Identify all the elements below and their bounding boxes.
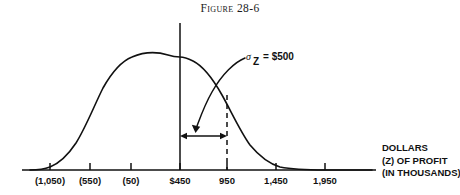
- axis-tick-label-1050: (1,050): [35, 175, 65, 186]
- axis-tick-label-1950: 1,950: [313, 175, 337, 186]
- x-axis-caption-line-2: (Z) OF PROFIT: [382, 155, 460, 168]
- std-dev-span-arrow: [180, 133, 227, 139]
- x-axis-caption: DOLLARS (Z) OF PROFIT (IN THOUSANDS): [382, 142, 460, 180]
- sigma-value: = $500: [259, 51, 294, 62]
- axis-tick-label-950: 950: [219, 175, 235, 186]
- axis-tick-label-1450: 1,450: [264, 175, 288, 186]
- sigma-annotation-label: σZ= $500: [246, 48, 294, 67]
- axis-tick-label-550: (550): [79, 175, 101, 186]
- sigma-subscript: Z: [251, 56, 259, 67]
- figure-page: Figure 28-6 σZ= $500: [0, 0, 460, 195]
- x-axis-caption-line-3: (IN THOUSANDS): [382, 167, 460, 180]
- axis-tick-label-50: (50): [123, 175, 140, 186]
- axis-tick-label-450: $450: [169, 175, 190, 186]
- bell-curve-path: [30, 53, 372, 170]
- x-axis-caption-line-1: DOLLARS: [382, 142, 460, 155]
